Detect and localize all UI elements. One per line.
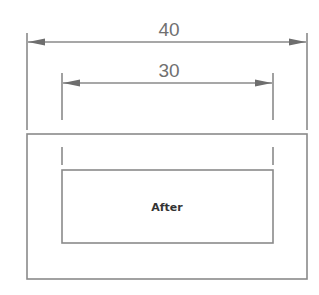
arrow-right-icon bbox=[255, 80, 272, 87]
inner-dimension-label: 30 bbox=[158, 60, 179, 81]
inner-dimension: 30 bbox=[62, 60, 273, 120]
dimension-diagram: 40 30 After bbox=[0, 0, 319, 295]
outer-dimension-label: 40 bbox=[158, 19, 179, 40]
arrow-left-icon bbox=[28, 39, 45, 46]
inner-box-label: After bbox=[151, 201, 183, 214]
arrow-right-icon bbox=[289, 39, 306, 46]
arrow-left-icon bbox=[63, 80, 80, 87]
